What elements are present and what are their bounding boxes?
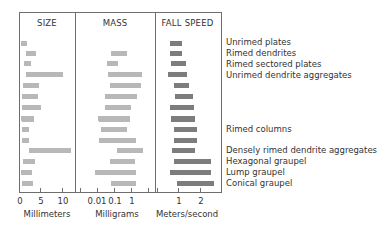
mass-bar bbox=[110, 83, 141, 88]
mass-bar bbox=[105, 105, 131, 110]
size-ticklabel: 5 bbox=[38, 196, 43, 206]
row-label-hexagonal-graupel: Hexagonal graupel bbox=[226, 156, 306, 166]
size-bar bbox=[23, 159, 35, 164]
size-bar bbox=[22, 138, 29, 143]
speed-tick-0 bbox=[157, 188, 158, 192]
fall-speed-bar bbox=[171, 117, 195, 122]
row-label-rimed-dendrites: Rimed dendrites bbox=[226, 48, 296, 58]
size-bar bbox=[29, 148, 71, 153]
fall-speed-bar bbox=[174, 159, 211, 164]
mass-bar bbox=[95, 170, 136, 175]
mass-tick-001 bbox=[97, 188, 98, 192]
speed-ticklabel: 1 bbox=[176, 196, 181, 206]
row-label-rimed-columns: Rimed columns bbox=[226, 124, 292, 134]
x-axis-line bbox=[19, 192, 221, 193]
size-ticklabel: 0 bbox=[17, 196, 22, 206]
mass-axis-label: Milligrams bbox=[95, 209, 139, 219]
row-label-densely-rimed-dendrite-aggregates: Densely rimed dendrite aggregates bbox=[226, 145, 377, 155]
panel-title-mass: MASS bbox=[75, 18, 155, 28]
fall-speed-bar bbox=[171, 61, 186, 66]
fall-speed-bar bbox=[174, 127, 197, 132]
size-bar bbox=[23, 83, 39, 88]
row-label-unrimed-dendrite-aggregates: Unrimed dendrite aggregates bbox=[226, 70, 352, 80]
size-axis-label: Millimeters bbox=[24, 209, 71, 219]
mass-bar bbox=[99, 138, 136, 143]
size-bar bbox=[22, 117, 34, 122]
mass-tick-01 bbox=[114, 188, 115, 192]
mass-ticklabel: 1 bbox=[129, 196, 134, 206]
size-bar bbox=[22, 127, 29, 132]
mass-bar bbox=[108, 72, 142, 77]
size-bar bbox=[22, 94, 38, 99]
row-label-lump-graupel: Lump graupel bbox=[226, 167, 285, 177]
fall-speed-bar bbox=[177, 181, 214, 186]
chart-frame bbox=[19, 12, 222, 193]
size-tick-0 bbox=[19, 188, 20, 192]
size-tick-5 bbox=[40, 188, 41, 192]
row-label-conical-graupel: Conical graupel bbox=[226, 178, 292, 188]
fall-speed-bar bbox=[168, 72, 187, 77]
fall-speed-bar bbox=[174, 138, 197, 143]
fall-speed-bar bbox=[172, 148, 195, 153]
panel-title-fall-speed: FALL SPEED bbox=[155, 18, 220, 28]
size-bar bbox=[22, 181, 33, 186]
mass-bar bbox=[111, 51, 127, 56]
speed-axis-label: Meters/second bbox=[156, 209, 218, 219]
mass-bar bbox=[110, 159, 135, 164]
size-bar bbox=[22, 105, 41, 110]
mass-tick-0001 bbox=[80, 188, 81, 192]
size-bar bbox=[24, 61, 31, 66]
fall-speed-bar bbox=[175, 94, 193, 99]
fall-speed-bar bbox=[174, 83, 189, 88]
size-ticklabel: 10 bbox=[58, 196, 69, 206]
speed-ticklabel: 2 bbox=[198, 196, 203, 206]
fall-speed-bar bbox=[170, 170, 211, 175]
fall-speed-bar bbox=[170, 51, 182, 56]
mass-bar bbox=[117, 148, 143, 153]
mass-bar bbox=[99, 117, 130, 122]
panel-divider-mass-speed bbox=[155, 12, 156, 192]
panel-title-size: SIZE bbox=[19, 18, 75, 28]
mass-bar bbox=[101, 127, 127, 132]
mass-bar bbox=[111, 181, 136, 186]
size-tick-10 bbox=[62, 188, 63, 192]
speed-tick-2 bbox=[200, 188, 201, 192]
mass-tick-10 bbox=[148, 188, 149, 192]
mass-tick-1 bbox=[131, 188, 132, 192]
size-bar bbox=[21, 170, 32, 175]
panel-divider-size-mass bbox=[75, 12, 76, 192]
mass-bar bbox=[107, 61, 118, 66]
mass-bar bbox=[105, 94, 137, 99]
mass-ticklabel: 0.01 bbox=[88, 196, 107, 206]
size-bar bbox=[26, 72, 63, 77]
size-bar bbox=[26, 51, 36, 56]
speed-tick-1 bbox=[178, 188, 179, 192]
row-label-unrimed-plates: Unrimed plates bbox=[226, 37, 291, 47]
mass-ticklabel: 0.1 bbox=[108, 196, 122, 206]
fall-speed-bar bbox=[170, 105, 194, 110]
size-bar bbox=[21, 41, 27, 46]
fall-speed-bar bbox=[170, 41, 182, 46]
row-label-rimed-sectored-plates: Rimed sectored plates bbox=[226, 59, 321, 69]
